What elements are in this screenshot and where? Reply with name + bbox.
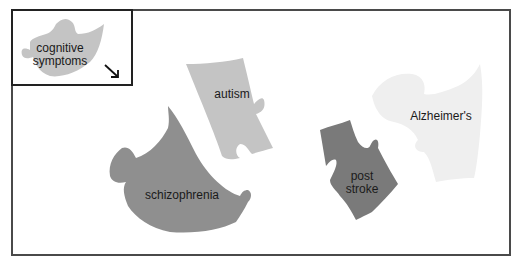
autism-label: autism [210, 88, 254, 101]
schizophrenia-label: schizophrenia [142, 189, 222, 202]
post-stroke-label: post stroke [344, 170, 380, 196]
autism-puzzle-piece [186, 58, 273, 159]
alzheimers-puzzle-piece [372, 64, 482, 182]
arrow-down-right-icon [105, 65, 118, 77]
post-stroke-label-line2: stroke [344, 183, 380, 196]
alzheimers-label: Alzheimer's [404, 110, 478, 123]
legend-label-line2: symptoms [28, 55, 92, 68]
legend-label: cognitive symptoms [28, 42, 92, 68]
